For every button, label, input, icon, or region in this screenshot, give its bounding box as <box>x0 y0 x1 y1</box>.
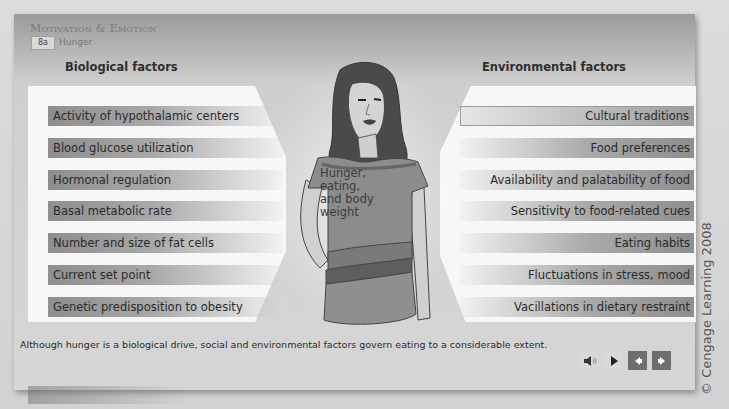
section-number-badge: 8a <box>31 36 55 50</box>
bio-factor-item[interactable]: Basal metabolic rate <box>48 201 283 221</box>
env-factor-item[interactable]: Sensitivity to food-related cues <box>460 201 694 221</box>
biological-factors-heading: Biological factors <box>65 60 178 74</box>
env-factor-item-selected[interactable]: Cultural traditions <box>460 106 694 126</box>
bio-factor-item[interactable]: Current set point <box>48 265 283 285</box>
bio-factor-item[interactable]: Hormonal regulation <box>48 170 283 190</box>
next-button[interactable] <box>652 351 671 370</box>
chapter-title: Motivation & Emotion <box>30 22 157 35</box>
previous-button[interactable] <box>628 351 647 370</box>
bio-factor-item[interactable]: Activity of hypothalamic centers <box>48 106 283 126</box>
shirt-line: weight <box>320 206 390 219</box>
env-factor-item[interactable]: Availability and palatability of food <box>460 170 694 190</box>
bio-factor-item[interactable]: Blood glucose utilization <box>48 138 283 158</box>
caption-text: Although hunger is a biological drive, s… <box>20 339 580 350</box>
env-factor-item[interactable]: Eating habits <box>460 233 694 253</box>
env-factor-item[interactable]: Vacillations in dietary restraint <box>460 297 694 317</box>
audio-button[interactable] <box>580 351 599 370</box>
section-title: Hunger <box>59 36 92 48</box>
play-icon <box>609 355 619 367</box>
environmental-factors-heading: Environmental factors <box>482 60 626 74</box>
bio-factor-item[interactable]: Genetic predisposition to obesity <box>48 297 283 317</box>
copyright-notice: © Cengage Learning 2008 <box>699 225 714 395</box>
arrow-right-icon <box>657 356 667 366</box>
arrow-left-icon <box>633 356 643 366</box>
decorative-smudge <box>28 386 188 404</box>
play-button[interactable] <box>604 351 623 370</box>
playback-controls <box>580 351 671 370</box>
bio-factor-item[interactable]: Number and size of fat cells <box>48 233 283 253</box>
speaker-icon <box>583 355 597 367</box>
env-factor-item[interactable]: Fluctuations in stress, mood <box>460 265 694 285</box>
env-factor-item[interactable]: Food preferences <box>460 138 694 158</box>
shirt-label: Hunger, eating, and body weight <box>320 167 390 219</box>
